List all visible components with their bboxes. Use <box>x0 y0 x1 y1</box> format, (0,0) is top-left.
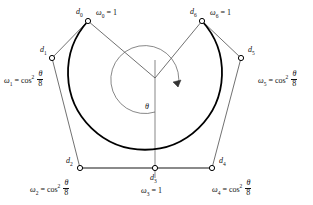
weight-label-d3: ω3 = 1 <box>141 187 162 197</box>
control-point-marker[interactable] <box>152 165 157 170</box>
weight-label-d4: ω4 = cos2 θ 8 <box>212 179 251 198</box>
point-label-d5: d5 <box>248 46 255 56</box>
control-point-marker[interactable] <box>85 18 90 23</box>
control-point-marker[interactable] <box>77 165 82 170</box>
fraction-theta-over-8: θ 8 <box>63 179 69 198</box>
point-label-d1: d1 <box>40 46 47 56</box>
weight-label-d5: ω5 = cos2 θ 8 <box>258 70 297 89</box>
weight-label-d6: ω6 = 1 <box>210 9 231 19</box>
control-polygon <box>52 21 241 168</box>
weight-label-d0: ω0 = 1 <box>96 9 117 19</box>
point-label-d2: d2 <box>66 157 73 167</box>
control-point-marker[interactable] <box>238 55 243 60</box>
control-point-marker[interactable] <box>199 18 204 23</box>
control-point-marker[interactable] <box>49 55 54 60</box>
circle-arc-curve <box>68 21 222 150</box>
theta-arrowhead-icon <box>173 80 181 87</box>
nurbs-circle-figure: d0 d1 d2 d3 d4 d5 d6 ω0 = 1 ω1 = cos2 θ … <box>0 0 313 205</box>
point-label-d3: d3 <box>150 174 157 184</box>
point-label-d0: d0 <box>76 8 83 18</box>
point-label-d6: d6 <box>190 8 197 18</box>
fraction-theta-over-8: θ 8 <box>37 70 43 89</box>
point-label-d4: d4 <box>219 157 226 167</box>
leg-d6-center <box>155 21 202 78</box>
theta-angle-label: θ <box>145 103 149 111</box>
fraction-theta-over-8: θ 8 <box>245 179 251 198</box>
leg-d0-center <box>88 21 155 78</box>
weight-label-d2: ω2 = cos2 θ 8 <box>30 179 69 198</box>
control-point-marker[interactable] <box>209 165 214 170</box>
weight-label-d1: ω1 = cos2 θ 8 <box>4 70 43 89</box>
fraction-theta-over-8: θ 8 <box>291 70 297 89</box>
